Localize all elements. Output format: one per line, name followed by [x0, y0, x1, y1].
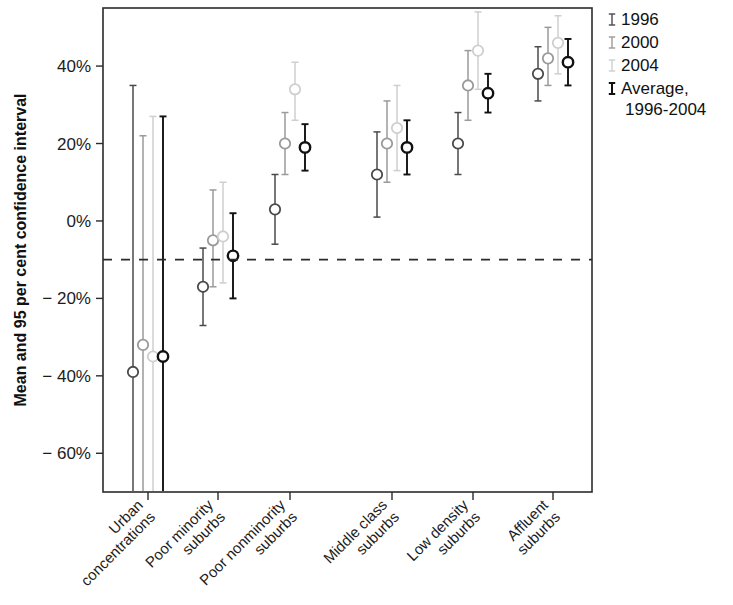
mean-marker — [382, 138, 392, 148]
mean-marker — [128, 367, 138, 377]
mean-marker — [543, 53, 553, 63]
legend-label: 1996 — [621, 10, 659, 29]
mean-marker — [483, 88, 493, 98]
legend-label: Average, — [621, 79, 689, 98]
mean-marker — [563, 57, 573, 67]
y-tick-label: 0% — [66, 212, 91, 231]
y-tick-label: − 60% — [42, 444, 91, 463]
mean-marker — [218, 231, 228, 241]
y-tick-label: − 40% — [42, 367, 91, 386]
mean-marker — [392, 123, 402, 133]
mean-marker — [280, 138, 290, 148]
y-tick-label: 20% — [57, 135, 91, 154]
mean-marker — [270, 204, 280, 214]
mean-marker — [198, 282, 208, 292]
mean-marker — [290, 84, 300, 94]
mean-marker — [473, 45, 483, 55]
legend-label: 2004 — [621, 56, 659, 75]
legend-label: 2000 — [621, 33, 659, 52]
mean-marker — [300, 142, 310, 152]
mean-marker — [372, 169, 382, 179]
chart-figure: 40%20%0%− 20%− 40%− 60%Urbanconcentratio… — [0, 0, 733, 605]
mean-marker — [553, 38, 563, 48]
mean-marker — [138, 340, 148, 350]
mean-marker — [533, 69, 543, 79]
legend-label-line2: 1996-2004 — [625, 100, 706, 119]
mean-marker — [402, 142, 412, 152]
mean-marker — [158, 351, 168, 361]
mean-marker — [453, 138, 463, 148]
y-axis-title: Mean and 95 per cent confidence interval — [12, 94, 29, 407]
mean-marker — [463, 80, 473, 90]
chart-canvas: 40%20%0%− 20%− 40%− 60%Urbanconcentratio… — [0, 0, 733, 605]
mean-marker — [208, 235, 218, 245]
y-tick-label: 40% — [57, 57, 91, 76]
y-tick-label: − 20% — [42, 289, 91, 308]
